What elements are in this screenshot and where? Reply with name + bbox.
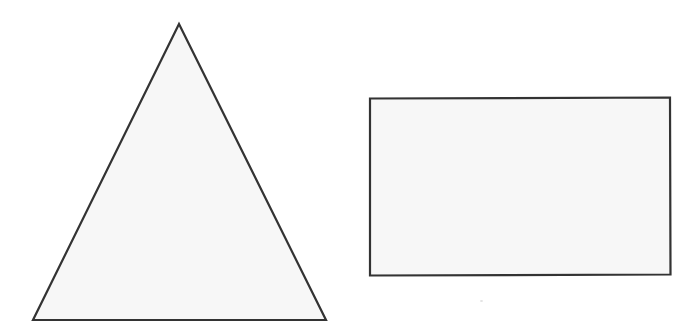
figure-canvas: [0, 0, 699, 332]
rectangle-shape[interactable]: [370, 98, 671, 276]
shapes-svg: [0, 0, 699, 332]
triangle-shape[interactable]: [33, 24, 326, 320]
scan-speck: [480, 300, 483, 302]
